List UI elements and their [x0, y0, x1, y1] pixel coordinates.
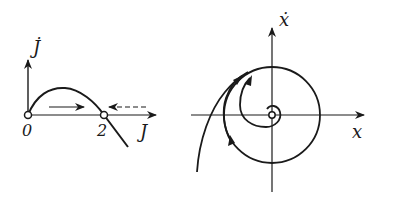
right-y-axis-label: ẋ [279, 9, 289, 30]
fixed-point-2 [101, 112, 108, 119]
tick-label-2: 2 [96, 121, 107, 140]
inner-spiral-arrow-icon [245, 75, 252, 86]
left-x-axis-label: J [136, 121, 149, 142]
right-x-axis-label: x [352, 121, 362, 142]
rate-curve [28, 88, 128, 147]
fixed-point-0 [25, 112, 32, 119]
tick-label-0: 0 [22, 121, 32, 140]
right-phase-plane-diagram: ẋ x [191, 9, 364, 192]
outside-trajectory [197, 76, 242, 172]
left-phase-line-diagram: J̇ 0 2 J [22, 37, 156, 147]
left-y-axis-label: J̇ [29, 37, 42, 58]
origin-focus [269, 112, 275, 118]
figure: J̇ 0 2 J ẋ x [0, 0, 393, 200]
inner-spiral-trajectory [240, 78, 280, 127]
